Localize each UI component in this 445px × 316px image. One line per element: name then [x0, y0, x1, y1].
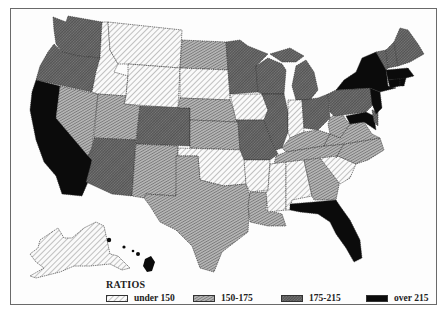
legend-label: under 150 [134, 293, 175, 303]
us-choropleth-map [0, 0, 445, 316]
state-ak[interactable] [30, 222, 130, 278]
dense-hatch-swatch-icon [281, 295, 303, 302]
medium-hatch-swatch-icon [193, 295, 215, 302]
state-sd[interactable] [180, 68, 230, 100]
light-hatch-swatch-icon [106, 295, 128, 302]
state-az[interactable] [86, 138, 136, 196]
state-wy[interactable] [124, 64, 180, 108]
solid-swatch-icon [366, 295, 388, 302]
state-ks[interactable] [190, 120, 240, 150]
state-ri[interactable] [400, 78, 406, 86]
legend-item-under-150: under 150 [106, 292, 175, 304]
state-nd[interactable] [180, 40, 228, 70]
state-ia[interactable] [230, 94, 268, 120]
legend-item-150-175: 150-175 [193, 292, 253, 304]
state-pa[interactable] [328, 88, 374, 116]
state-ar[interactable] [244, 160, 270, 192]
legend-item-over-215: over 215 [366, 292, 428, 304]
state-wi[interactable] [256, 58, 286, 94]
state-mi[interactable] [292, 60, 318, 100]
legend-title: RATIOS [106, 279, 145, 290]
state-fl[interactable] [290, 200, 362, 262]
state-mt[interactable] [108, 22, 182, 68]
legend-label: 175-215 [309, 293, 341, 303]
states-layer [30, 16, 424, 278]
state-ma[interactable] [386, 68, 414, 80]
legend-item-175-215: 175-215 [281, 292, 341, 304]
state-in[interactable] [288, 100, 304, 138]
legend-label: over 215 [394, 293, 428, 303]
state-mi-up[interactable] [270, 48, 304, 62]
legend-label: 150-175 [221, 293, 253, 303]
state-me[interactable] [394, 28, 424, 66]
state-nm[interactable] [132, 144, 178, 198]
state-co[interactable] [136, 106, 190, 146]
